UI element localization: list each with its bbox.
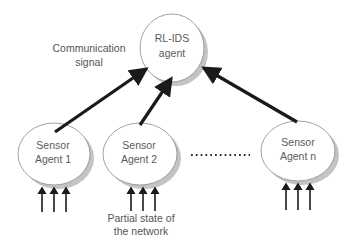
sensor-n-inputs [286, 184, 310, 210]
partial-state-label-line2: the network [114, 224, 168, 238]
arrow-sensorn-to-rlids [204, 68, 297, 122]
communication-label-line2: signal [75, 55, 102, 69]
sensor-1-label-line2: Agent 1 [35, 152, 71, 166]
sensor-1-inputs [42, 188, 66, 212]
arrow-sensor1-to-rlids [55, 69, 146, 132]
rl-ids-label-line1: RL-IDS [155, 31, 189, 45]
sensor-2-inputs [131, 188, 155, 211]
rl-ids-label-line2: agent [159, 46, 185, 60]
sensor-1-label-line1: Sensor [36, 138, 69, 152]
arrow-sensor2-to-rlids [140, 79, 171, 125]
communication-label-line1: Communication [53, 41, 126, 55]
partial-state-label-line1: Partial state of [107, 211, 174, 225]
sensor-n-label-line1: Sensor [281, 135, 314, 149]
sensor-n-label-line2: Agent n [280, 149, 316, 163]
sensor-2-label-line2: Agent 2 [121, 152, 157, 166]
diagram-canvas: Communication signal RL-IDS agent Sensor… [0, 0, 351, 245]
sensor-2-label-line1: Sensor [122, 138, 155, 152]
